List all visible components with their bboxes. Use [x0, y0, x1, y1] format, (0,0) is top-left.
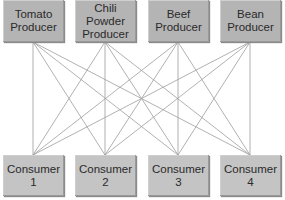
- bean-producer-node: Bean Producer: [220, 0, 281, 42]
- node-label: Beef Producer: [155, 8, 202, 34]
- node-label: Consumer 2: [79, 163, 132, 189]
- node-label: Consumer 4: [224, 163, 277, 189]
- node-label: Bean Producer: [227, 8, 274, 34]
- chili-powder-producer-node: Chili Powder Producer: [75, 0, 136, 42]
- node-label: Consumer 3: [152, 163, 205, 189]
- consumer-4-node: Consumer 4: [220, 155, 281, 196]
- consumer-1-node: Consumer 1: [3, 155, 64, 196]
- consumer-3-node: Consumer 3: [148, 155, 209, 196]
- tomato-producer-node: Tomato Producer: [3, 0, 64, 42]
- consumer-2-node: Consumer 2: [75, 155, 136, 196]
- node-label: Consumer 1: [7, 163, 60, 189]
- node-label: Tomato Producer: [10, 8, 57, 34]
- node-label: Chili Powder Producer: [82, 2, 129, 41]
- beef-producer-node: Beef Producer: [148, 0, 209, 42]
